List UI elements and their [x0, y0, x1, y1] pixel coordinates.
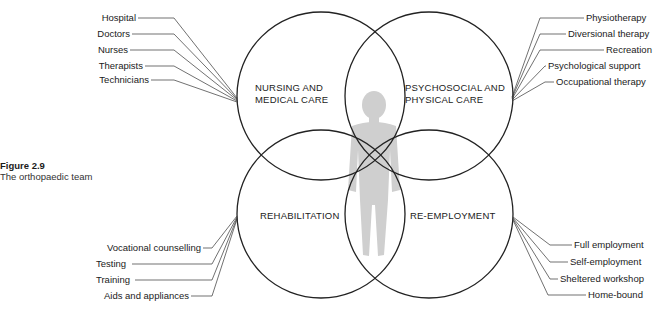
- figure-number: Figure 2.9: [0, 160, 92, 171]
- label-technicians: Technicians: [99, 74, 149, 85]
- figure-title: The orthopaedic team: [0, 171, 92, 182]
- circle-title-re-employment: RE-EMPLOYMENT: [410, 210, 495, 221]
- label-nurses: Nurses: [98, 44, 128, 55]
- label-therapists: Therapists: [99, 60, 144, 71]
- label-vocational-counselling: Vocational counselling: [107, 242, 201, 253]
- circle-title-nursing-line2: MEDICAL CARE: [255, 94, 328, 105]
- label-training: Training: [96, 274, 130, 285]
- label-testing: Testing: [96, 258, 126, 269]
- figure-caption: Figure 2.9 The orthopaedic team: [0, 160, 92, 182]
- orthopaedic-team-venn-diagram: NURSING AND MEDICAL CARE PSYCHOSOCIAL AN…: [0, 0, 664, 317]
- label-hospital: Hospital: [102, 12, 136, 23]
- label-doctors: Doctors: [97, 28, 130, 39]
- label-sheltered-workshop: Sheltered workshop: [560, 273, 644, 284]
- label-psychological-support: Psychological support: [548, 60, 641, 71]
- label-aids-and-appliances: Aids and appliances: [104, 290, 189, 301]
- label-full-employment: Full employment: [574, 239, 644, 250]
- circle-title-psychosocial-line2: PHYSICAL CARE: [405, 94, 483, 105]
- label-recreation: Recreation: [606, 44, 652, 55]
- circle-title-nursing-line1: NURSING AND: [255, 82, 323, 93]
- label-diversional-therapy: Diversional therapy: [568, 28, 650, 39]
- label-physiotherapy: Physiotherapy: [586, 12, 646, 23]
- circle-title-rehabilitation: REHABILITATION: [260, 210, 340, 221]
- label-occupational-therapy: Occupational therapy: [556, 76, 646, 87]
- label-home-bound: Home-bound: [588, 289, 643, 300]
- label-self-employment: Self-employment: [570, 256, 642, 267]
- circle-title-psychosocial-line1: PSYCHOSOCIAL AND: [405, 82, 505, 93]
